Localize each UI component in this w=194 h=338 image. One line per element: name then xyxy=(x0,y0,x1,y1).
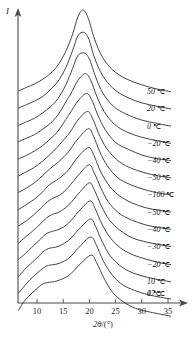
series-temperature-unit: ℃ xyxy=(166,190,174,199)
xrd-stacked-curves-figure: I 101520253035 2θ/(°) 50 ℃20 ℃0 ℃−20 ℃−4… xyxy=(0,0,194,338)
x-axis-tick-label: 10 xyxy=(33,306,42,316)
series-temperature-unit: ℃ xyxy=(162,242,170,251)
series-temperature-label: 0 ℃ xyxy=(147,122,161,131)
x-axis-ticks xyxy=(37,299,168,303)
x-axis-tick-label: 15 xyxy=(59,306,68,316)
x-axis-title-symbol: 2θ xyxy=(93,319,101,329)
series-temperature-label: 50 ℃ xyxy=(147,87,165,96)
series-temperature-unit: ℃ xyxy=(162,139,170,148)
y-axis: I xyxy=(5,6,21,303)
series-temperature-value: −40 xyxy=(147,156,162,165)
x-axis-tick-label: 35 xyxy=(164,306,173,316)
series-temperature-label: 17 ℃ xyxy=(147,289,165,298)
series-temperature-unit: ℃ xyxy=(157,277,165,286)
x-axis-tick-labels: 101520253035 xyxy=(33,306,173,316)
series-temperature-label: −40 ℃ xyxy=(147,225,170,234)
series-temperature-value: −30 xyxy=(147,242,162,251)
series-temperature-unit: ℃ xyxy=(162,225,170,234)
series-temperature-label: −20 ℃ xyxy=(147,260,170,269)
x-axis-title-unit: /(°) xyxy=(102,319,114,329)
series-temperature-value: −40 xyxy=(147,225,162,234)
series-label-group: 50 ℃20 ℃0 ℃−20 ℃−40 ℃−50 ℃−100 ℃−50 ℃−40… xyxy=(147,87,174,298)
series-temperature-value: 50 xyxy=(147,87,157,96)
xrd-curve xyxy=(19,10,171,92)
series-temperature-label: −20 ℃ xyxy=(147,139,170,148)
series-temperature-value: 17 xyxy=(147,289,157,298)
series-temperature-value: 10 xyxy=(147,277,157,286)
series-temperature-label: −50 ℃ xyxy=(147,208,170,217)
series-temperature-label: −30 ℃ xyxy=(147,242,170,251)
series-temperature-unit: ℃ xyxy=(162,156,170,165)
series-temperature-label: −100 ℃ xyxy=(147,190,174,199)
series-temperature-value: −50 xyxy=(147,173,162,182)
x-axis-title: 2θ/(°) xyxy=(93,319,113,329)
series-temperature-value: −20 xyxy=(147,260,162,269)
series-temperature-value: −50 xyxy=(147,208,162,217)
series-temperature-unit: ℃ xyxy=(153,122,161,131)
series-temperature-unit: ℃ xyxy=(157,87,165,96)
x-axis-tick-label: 25 xyxy=(111,306,120,316)
series-temperature-unit: ℃ xyxy=(162,260,170,269)
series-temperature-label: 10 ℃ xyxy=(147,277,165,286)
y-axis-label: I xyxy=(5,6,10,16)
series-temperature-unit: ℃ xyxy=(157,289,165,298)
series-temperature-label: −40 ℃ xyxy=(147,156,170,165)
series-temperature-unit: ℃ xyxy=(162,208,170,217)
series-temperature-unit: ℃ xyxy=(157,104,165,113)
series-temperature-value: 20 xyxy=(147,104,157,113)
series-temperature-label: −50 ℃ xyxy=(147,173,170,182)
series-temperature-unit: ℃ xyxy=(162,173,170,182)
x-axis-tick-label: 20 xyxy=(85,306,94,316)
series-temperature-value: −20 xyxy=(147,139,162,148)
series-temperature-value: −100 xyxy=(147,190,166,199)
series-temperature-label: 20 ℃ xyxy=(147,104,165,113)
xrd-curve xyxy=(19,32,171,109)
x-axis: 101520253035 2θ/(°) xyxy=(18,299,188,329)
